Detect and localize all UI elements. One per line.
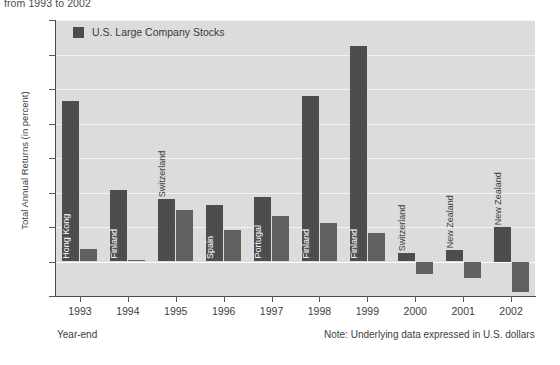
x-tick-mark — [176, 296, 177, 302]
bar-us — [464, 262, 481, 279]
footnote-note: Note: Underlying data expressed in U.S. … — [324, 329, 535, 340]
legend-label: U.S. Large Company Stocks — [92, 26, 224, 38]
bar-us — [128, 260, 145, 262]
y-tick-mark — [49, 262, 56, 263]
bar-country-label: Switzerland — [398, 188, 415, 251]
bar-country — [350, 46, 367, 261]
chart-top-title: from 1993 to 2002 — [4, 0, 91, 9]
y-tick-mark — [49, 55, 56, 56]
bar-country — [254, 197, 271, 262]
gridline — [56, 227, 535, 228]
bar-country — [302, 96, 319, 262]
gridline — [56, 158, 535, 159]
x-tick-label: 2002 — [481, 305, 541, 317]
y-tick-mark — [49, 158, 56, 159]
y-tick-mark — [49, 20, 56, 21]
x-tick-mark — [128, 296, 129, 302]
bar-us — [512, 262, 529, 292]
x-tick-mark — [319, 296, 320, 302]
y-axis-title: Total Annual Returns (in percent) — [19, 76, 30, 246]
bar-country — [398, 253, 415, 261]
bar-country — [494, 227, 511, 262]
bar-us — [224, 230, 241, 262]
legend: U.S. Large Company Stocks — [73, 26, 224, 38]
plot-inner: Hong KongFinlandSwitzerlandSpainPortugal… — [56, 20, 535, 296]
bar-country-label: New Zealand — [446, 185, 463, 248]
x-tick-mark — [367, 296, 368, 302]
gridline — [56, 193, 535, 194]
bar-country — [446, 250, 463, 261]
bar-us — [272, 216, 289, 262]
x-tick-mark — [415, 296, 416, 302]
chart-canvas: from 1993 to 2002 Total Annual Returns (… — [0, 0, 560, 365]
bar-us — [80, 249, 97, 261]
y-tick-mark — [49, 89, 56, 90]
bar-us — [416, 262, 433, 274]
footnote-year-end: Year-end — [57, 329, 97, 340]
bar-country-label: Switzerland — [158, 134, 175, 197]
bar-country — [206, 205, 223, 262]
y-tick-mark — [49, 124, 56, 125]
gridline — [56, 20, 535, 21]
y-tick-mark — [49, 193, 56, 194]
bar-us — [320, 223, 337, 262]
plot-area: Hong KongFinlandSwitzerlandSpainPortugal… — [56, 20, 535, 296]
bar-country — [62, 101, 79, 261]
bar-country — [158, 199, 175, 261]
y-tick-mark — [49, 296, 56, 297]
gridline — [56, 55, 535, 56]
gridline — [56, 89, 535, 90]
bar-country — [110, 190, 127, 262]
x-tick-mark — [80, 296, 81, 302]
y-tick-mark — [49, 227, 56, 228]
x-tick-mark — [224, 296, 225, 302]
x-tick-mark — [511, 296, 512, 302]
x-tick-mark — [463, 296, 464, 302]
x-tick-mark — [272, 296, 273, 302]
bar-us — [368, 233, 385, 262]
legend-swatch-icon — [73, 27, 84, 38]
gridline — [56, 124, 535, 125]
bar-us — [176, 210, 193, 261]
